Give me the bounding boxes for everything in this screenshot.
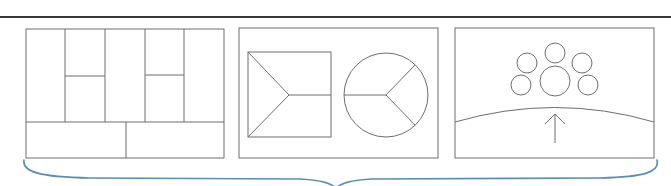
small-circle-lower-right xyxy=(578,75,598,95)
panel-grid-layout xyxy=(26,29,224,158)
large-circle-center xyxy=(540,66,570,96)
small-circle-upper-right xyxy=(572,53,592,73)
small-circle-top xyxy=(545,43,565,63)
circle-spoke-upper-right xyxy=(386,65,415,95)
curly-brace xyxy=(24,160,658,186)
panel-frame xyxy=(26,29,224,158)
panel-square-and-circle xyxy=(239,28,438,158)
panel-cluster-and-horizon xyxy=(455,28,654,158)
small-circle-lower-left xyxy=(511,75,531,95)
circle-spoke-lower-right xyxy=(386,95,415,125)
diagram-canvas xyxy=(0,0,671,186)
panel-frame xyxy=(239,28,438,158)
chevron-upper xyxy=(248,52,289,95)
chevron-lower xyxy=(248,95,289,137)
small-circle-upper-left xyxy=(517,53,537,73)
